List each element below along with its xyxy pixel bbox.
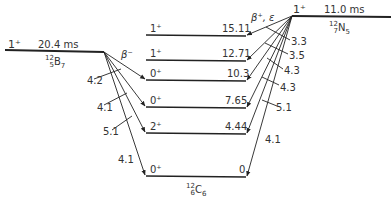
c12-level-12.71 xyxy=(146,60,246,61)
c12-level-jp-0: 1⁺ xyxy=(150,24,162,34)
bplus-logft-2: 4.3 xyxy=(284,66,300,76)
c12-level-e-5: 0 xyxy=(239,165,245,175)
c12-level-jp-2: 0⁺ xyxy=(150,69,162,79)
c12-level-10.3 xyxy=(146,80,246,81)
bplus-logft-3: 4.3 xyxy=(280,83,296,93)
b12-nuclide-label: 125B7 xyxy=(45,55,65,70)
n12-spin-parity: 1⁺ xyxy=(293,4,306,15)
bplus-logft-0: 3.3 xyxy=(291,37,307,47)
n12-nuclide-label: 127N5 xyxy=(329,21,350,36)
c12-level-jp-1: 1⁺ xyxy=(150,49,162,59)
bminus-logft-3: 4.1 xyxy=(118,155,134,165)
b12-half-life: 20.4 ms xyxy=(38,40,78,50)
c12-level-jp-3: 0⁺ xyxy=(150,96,162,106)
beta-plus-arrows xyxy=(247,16,292,176)
c12-level-e-0: 15.11 xyxy=(222,24,251,34)
c12-nuclide-label: 126C6 xyxy=(186,183,206,198)
c12-level-jp-5: 0⁺ xyxy=(150,165,162,175)
n12-half-life: 11.0 ms xyxy=(324,5,364,15)
c12-level-e-4: 4.44 xyxy=(225,122,247,132)
n12-ground-level xyxy=(292,16,391,17)
c12-level-e-1: 12.71 xyxy=(222,49,251,59)
bminus-logft-2: 5.1 xyxy=(103,127,119,137)
c12-level-e-2: 10.3 xyxy=(227,69,249,79)
bminus-logft-1: 4.1 xyxy=(97,103,113,113)
c12-level-15.11 xyxy=(146,35,246,36)
b12-spin-parity: 1⁺ xyxy=(8,39,21,50)
c12-level-e-3: 7.65 xyxy=(225,96,247,106)
beta-minus-label: β⁻ xyxy=(121,50,133,60)
bplus-logft-4: 5.1 xyxy=(276,103,292,113)
c12-level-0 xyxy=(146,176,246,177)
bplus-logft-1: 3.5 xyxy=(289,51,305,61)
c12-level-jp-4: 2⁺ xyxy=(150,122,162,132)
c12-level-4.44 xyxy=(146,133,246,134)
beta-plus-label: β⁺, ε xyxy=(251,13,274,23)
bplus-logft-5: 4.1 xyxy=(265,135,281,145)
c12-level-7.65 xyxy=(146,107,246,108)
bminus-logft-0: 4.2 xyxy=(87,76,103,86)
